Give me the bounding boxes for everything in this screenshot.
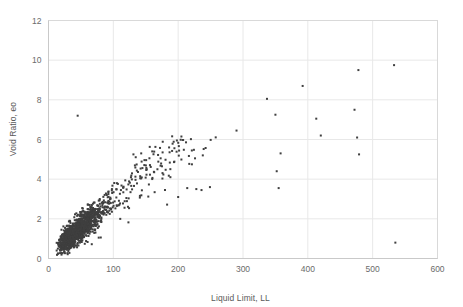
- data-point: [74, 243, 76, 245]
- data-point: [152, 153, 154, 155]
- data-point: [134, 176, 136, 178]
- data-point: [64, 244, 66, 246]
- data-point: [76, 245, 78, 247]
- data-point: [188, 155, 190, 157]
- data-point: [69, 241, 71, 243]
- data-point: [80, 215, 82, 217]
- data-point: [88, 232, 90, 234]
- data-point: [153, 151, 155, 153]
- data-point: [61, 249, 63, 251]
- data-point: [168, 146, 170, 148]
- data-point: [79, 213, 81, 215]
- data-point: [177, 142, 179, 144]
- data-point: [71, 225, 73, 227]
- data-point: [139, 175, 141, 177]
- data-point: [141, 161, 143, 163]
- data-point: [96, 208, 98, 210]
- data-point: [266, 98, 268, 100]
- y-axis-title: Void Ratio, eo: [8, 69, 18, 189]
- data-point: [100, 237, 102, 239]
- data-point: [86, 213, 88, 215]
- data-point: [75, 226, 77, 228]
- data-point: [79, 231, 81, 233]
- data-point: [106, 206, 108, 208]
- data-point: [102, 196, 104, 198]
- data-point: [109, 207, 111, 209]
- data-point: [60, 229, 62, 231]
- data-point: [92, 207, 94, 209]
- data-point: [320, 135, 322, 137]
- data-point: [131, 172, 133, 174]
- data-point: [77, 237, 79, 239]
- data-point: [72, 230, 74, 232]
- data-point: [186, 187, 188, 189]
- data-point: [91, 212, 93, 214]
- data-point: [88, 235, 90, 237]
- y-tick-label: 2: [37, 214, 42, 224]
- data-point: [104, 208, 106, 210]
- data-point: [98, 215, 100, 217]
- data-point: [173, 147, 175, 149]
- data-point: [130, 191, 132, 193]
- data-point: [190, 138, 192, 140]
- data-point: [119, 218, 121, 220]
- data-point: [236, 130, 238, 132]
- data-point: [97, 220, 99, 222]
- data-point: [115, 196, 117, 198]
- data-point: [77, 229, 79, 231]
- data-point: [161, 178, 163, 180]
- data-point: [161, 165, 163, 167]
- data-point: [356, 137, 358, 139]
- data-point: [159, 147, 161, 149]
- data-point: [99, 207, 101, 209]
- data-point: [92, 203, 94, 205]
- data-point: [72, 232, 74, 234]
- data-point: [57, 252, 59, 254]
- data-point: [193, 149, 195, 151]
- data-point: [151, 177, 153, 179]
- data-point: [165, 159, 167, 161]
- data-point: [83, 216, 85, 218]
- y-tick-label: 12: [32, 16, 42, 26]
- data-point: [102, 203, 104, 205]
- data-point: [112, 202, 114, 204]
- data-point: [84, 214, 86, 216]
- data-point: [177, 196, 179, 198]
- data-point: [169, 176, 171, 178]
- data-point: [154, 146, 156, 148]
- data-point: [135, 156, 137, 158]
- data-point: [165, 169, 167, 171]
- data-point: [122, 202, 124, 204]
- data-point: [104, 206, 106, 208]
- data-point: [127, 206, 129, 208]
- data-point: [63, 236, 65, 238]
- data-point: [56, 250, 58, 252]
- data-point: [185, 141, 187, 143]
- data-point: [77, 115, 79, 117]
- data-point: [88, 226, 90, 228]
- data-point: [86, 221, 88, 223]
- data-point: [68, 248, 70, 250]
- data-point: [108, 191, 110, 193]
- data-point: [274, 114, 276, 116]
- data-point: [134, 167, 136, 169]
- data-point: [169, 168, 171, 170]
- data-point: [99, 205, 101, 207]
- data-point: [99, 198, 101, 200]
- data-point: [122, 187, 124, 189]
- data-point: [169, 162, 171, 164]
- y-tick-label: 10: [32, 55, 42, 65]
- data-point: [84, 233, 86, 235]
- data-point: [86, 235, 88, 237]
- data-point: [194, 157, 196, 159]
- data-point: [92, 214, 94, 216]
- data-point: [118, 200, 120, 202]
- data-point: [162, 151, 164, 153]
- data-point: [173, 141, 175, 143]
- data-point: [93, 229, 95, 231]
- data-point: [154, 191, 156, 193]
- data-point: [145, 164, 147, 166]
- data-point: [203, 148, 205, 150]
- data-point: [60, 238, 62, 240]
- data-point: [76, 234, 78, 236]
